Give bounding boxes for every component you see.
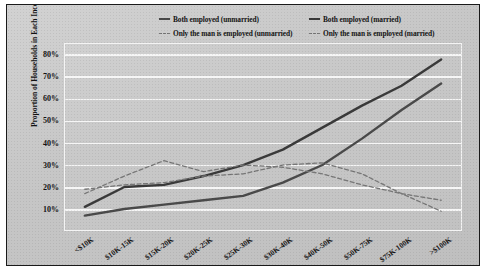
legend-label: Both employed (unmarried) xyxy=(173,15,259,24)
series-line xyxy=(85,84,441,216)
line-solid-icon xyxy=(159,18,170,20)
y-axis-tick-label: 50% xyxy=(43,116,59,125)
y-axis-tick-label: 20% xyxy=(43,182,59,191)
chart-legend: Both employed (unmarried) Both employed … xyxy=(159,13,479,39)
legend-label: Only the man is employed (unmarried) xyxy=(173,29,292,38)
y-axis-label: Proportion of Households in Each Income … xyxy=(30,4,39,127)
figure-frame: Both employed (unmarried) Both employed … xyxy=(6,4,480,266)
line-dashed-icon xyxy=(309,33,320,34)
chart-screenshot: Both employed (unmarried) Both employed … xyxy=(0,0,486,273)
line-dashed-icon xyxy=(159,33,170,34)
y-axis-tick-label: 40% xyxy=(43,138,59,147)
line-solid-icon xyxy=(309,18,320,20)
y-axis-tick-label: 60% xyxy=(43,94,59,103)
series-line xyxy=(85,161,441,201)
legend-label: Only the man is employed (married) xyxy=(323,29,434,38)
legend-item-both-employed-married: Both employed (married) xyxy=(309,13,479,25)
legend-label: Both employed (married) xyxy=(323,15,401,24)
series-lines xyxy=(65,44,461,231)
series-line xyxy=(85,59,441,206)
legend-item-only-man-employed-married: Only the man is employed (married) xyxy=(309,27,479,39)
legend-item-only-man-employed-unmarried: Only the man is employed (unmarried) xyxy=(159,27,309,39)
y-axis-tick-label: 10% xyxy=(43,204,59,213)
y-axis-tick-label: 70% xyxy=(43,72,59,81)
plot-area xyxy=(64,43,462,231)
plot-container: Proportion of Households in Each Income … xyxy=(64,43,462,231)
y-axis-tick-label: 30% xyxy=(43,160,59,169)
y-axis-tick-label: 80% xyxy=(43,50,59,59)
legend-item-both-employed-unmarried: Both employed (unmarried) xyxy=(159,13,309,25)
